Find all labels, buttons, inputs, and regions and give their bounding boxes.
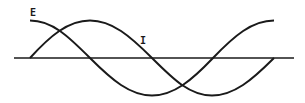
waveform-diagram (0, 0, 305, 103)
current-label: I (140, 36, 146, 46)
voltage-label: E (30, 8, 36, 18)
